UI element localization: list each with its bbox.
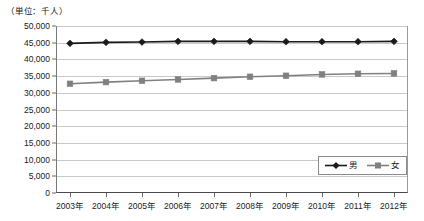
- data-point-男: [319, 38, 326, 45]
- data-point-男: [283, 38, 290, 45]
- x-axis-label: 2009年: [272, 199, 300, 211]
- y-axis-label: 0: [4, 188, 50, 198]
- x-axis-tick: [106, 193, 107, 197]
- legend-item-男[interactable]: 男: [325, 160, 358, 171]
- x-axis-tick: [358, 193, 359, 197]
- legend-label: 女: [391, 161, 400, 170]
- series-line-男: [70, 41, 394, 43]
- data-point-女: [175, 77, 181, 83]
- y-axis-label: 40,000: [4, 54, 50, 64]
- data-point-男: [247, 38, 254, 45]
- data-point-男: [355, 38, 362, 45]
- data-point-女: [319, 72, 325, 78]
- data-point-女: [391, 71, 397, 77]
- x-axis-tick: [70, 193, 71, 197]
- data-point-女: [211, 75, 217, 81]
- x-axis-label: 2003年: [56, 199, 84, 211]
- data-point-男: [175, 38, 182, 45]
- y-axis-label: 35,000: [4, 71, 50, 81]
- legend-label: 男: [349, 161, 358, 170]
- y-axis-unit-note: （単位：千人）: [6, 4, 68, 16]
- legend-item-女[interactable]: 女: [367, 160, 400, 171]
- x-axis-tick: [142, 193, 143, 197]
- y-axis-label: 30,000: [4, 88, 50, 98]
- x-axis-label: 2011年: [344, 199, 371, 211]
- x-axis-label: 2005年: [128, 199, 156, 211]
- x-axis-tick: [394, 193, 395, 197]
- data-point-男: [67, 40, 74, 47]
- y-axis-label: 45,000: [4, 38, 50, 48]
- x-axis-label: 2010年: [308, 199, 336, 211]
- data-point-女: [103, 79, 109, 85]
- data-point-女: [139, 78, 145, 84]
- x-axis-tick: [322, 193, 323, 197]
- x-axis-tick: [286, 193, 287, 197]
- x-axis-label: 2007年: [200, 199, 228, 211]
- y-axis-label: 10,000: [4, 155, 50, 165]
- data-point-女: [247, 74, 253, 80]
- data-point-男: [391, 38, 398, 45]
- series-line-女: [70, 73, 394, 83]
- legend-marker-diamond-icon: [325, 160, 347, 171]
- x-axis-label: 2008年: [236, 199, 264, 211]
- x-axis-label: 2006年: [164, 199, 192, 211]
- y-axis-label: 5,000: [4, 171, 50, 181]
- x-axis-label: 2012年: [380, 199, 408, 211]
- x-axis-tick: [178, 193, 179, 197]
- y-axis-label: 50,000: [4, 21, 50, 31]
- y-axis-label: 20,000: [4, 121, 50, 131]
- x-axis: 2003年2004年2005年2006年2007年2008年2009年2010年…: [56, 193, 408, 219]
- y-axis-label: 15,000: [4, 138, 50, 148]
- data-point-女: [355, 71, 361, 77]
- data-point-男: [211, 38, 218, 45]
- legend: 男女: [318, 156, 407, 175]
- x-axis-tick: [214, 193, 215, 197]
- line-chart: （単位：千人） 05,00010,00015,00020,00025,00030…: [0, 0, 424, 221]
- data-point-女: [67, 81, 73, 87]
- data-point-女: [283, 73, 289, 79]
- data-point-男: [139, 39, 146, 46]
- data-point-男: [103, 39, 110, 46]
- x-axis-label: 2004年: [92, 199, 120, 211]
- y-axis-label: 25,000: [4, 105, 50, 115]
- legend-marker-square-icon: [367, 160, 389, 171]
- x-axis-tick: [250, 193, 251, 197]
